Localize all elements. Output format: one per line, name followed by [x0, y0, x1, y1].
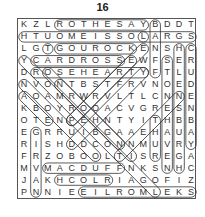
- grid-cell[interactable]: T: [125, 67, 137, 79]
- grid-cell[interactable]: S: [173, 103, 185, 115]
- grid-cell[interactable]: K: [137, 162, 149, 174]
- grid-cell[interactable]: C: [30, 55, 42, 67]
- grid-cell[interactable]: T: [161, 67, 173, 79]
- grid-cell[interactable]: T: [30, 114, 42, 126]
- grid-cell[interactable]: F: [161, 174, 173, 186]
- grid-cell[interactable]: S: [102, 55, 114, 67]
- grid-cell[interactable]: Z: [185, 174, 197, 186]
- grid-cell[interactable]: L: [113, 91, 125, 103]
- grid-cell[interactable]: S: [149, 162, 161, 174]
- grid-cell[interactable]: E: [161, 186, 173, 198]
- grid-cell[interactable]: A: [102, 103, 114, 115]
- grid-cell[interactable]: E: [18, 126, 30, 138]
- grid-cell[interactable]: K: [42, 174, 54, 186]
- grid-cell[interactable]: F: [149, 67, 161, 79]
- grid-cell[interactable]: O: [161, 79, 173, 91]
- grid-cell[interactable]: A: [185, 150, 197, 162]
- grid-cell[interactable]: K: [18, 103, 30, 115]
- grid-cell[interactable]: G: [137, 103, 149, 115]
- grid-cell[interactable]: B: [90, 126, 102, 138]
- grid-cell[interactable]: Z: [30, 19, 42, 31]
- grid-cell[interactable]: I: [90, 31, 102, 43]
- grid-cell[interactable]: W: [78, 91, 90, 103]
- grid-cell[interactable]: B: [173, 114, 185, 126]
- grid-cell[interactable]: L: [18, 43, 30, 55]
- grid-cell[interactable]: U: [185, 67, 197, 79]
- grid-cell[interactable]: E: [173, 55, 185, 67]
- grid-cell[interactable]: A: [54, 162, 66, 174]
- grid-cell[interactable]: R: [54, 55, 66, 67]
- grid-cell[interactable]: I: [78, 126, 90, 138]
- grid-cell[interactable]: S: [137, 150, 149, 162]
- grid-cell[interactable]: K: [173, 186, 185, 198]
- grid-cell[interactable]: D: [66, 138, 78, 150]
- grid-cell[interactable]: E: [125, 55, 137, 67]
- grid-cell[interactable]: U: [149, 138, 161, 150]
- grid-cell[interactable]: U: [42, 31, 54, 43]
- grid-cell[interactable]: R: [102, 174, 114, 186]
- grid-cell[interactable]: N: [54, 114, 66, 126]
- grid-cell[interactable]: O: [149, 174, 161, 186]
- grid-cell[interactable]: G: [102, 126, 114, 138]
- grid-cell[interactable]: O: [125, 31, 137, 43]
- grid-cell[interactable]: O: [90, 103, 102, 115]
- grid-cell[interactable]: R: [54, 126, 66, 138]
- grid-cell[interactable]: I: [90, 186, 102, 198]
- grid-cell[interactable]: L: [137, 31, 149, 43]
- grid-cell[interactable]: R: [185, 55, 197, 67]
- grid-cell[interactable]: L: [102, 186, 114, 198]
- grid-cell[interactable]: Y: [125, 114, 137, 126]
- grid-cell[interactable]: C: [185, 162, 197, 174]
- grid-cell[interactable]: U: [66, 126, 78, 138]
- grid-cell[interactable]: R: [30, 150, 42, 162]
- grid-cell[interactable]: F: [102, 162, 114, 174]
- grid-cell[interactable]: B: [185, 114, 197, 126]
- grid-cell[interactable]: R: [54, 19, 66, 31]
- grid-cell[interactable]: A: [125, 174, 137, 186]
- grid-cell[interactable]: E: [161, 103, 173, 115]
- grid-cell[interactable]: A: [125, 19, 137, 31]
- grid-cell[interactable]: N: [30, 186, 42, 198]
- grid-cell[interactable]: N: [161, 91, 173, 103]
- grid-cell[interactable]: R: [42, 126, 54, 138]
- grid-cell[interactable]: J: [18, 174, 30, 186]
- grid-cell[interactable]: N: [125, 138, 137, 150]
- grid-cell[interactable]: O: [30, 91, 42, 103]
- grid-cell[interactable]: O: [90, 55, 102, 67]
- grid-cell[interactable]: C: [185, 43, 197, 55]
- grid-cell[interactable]: S: [54, 67, 66, 79]
- grid-cell[interactable]: T: [113, 150, 125, 162]
- grid-cell[interactable]: U: [90, 162, 102, 174]
- grid-cell[interactable]: F: [113, 79, 125, 91]
- grid-cell[interactable]: Z: [42, 150, 54, 162]
- grid-cell[interactable]: T: [102, 79, 114, 91]
- grid-cell[interactable]: R: [18, 138, 30, 150]
- grid-cell[interactable]: N: [18, 79, 30, 91]
- grid-cell[interactable]: S: [113, 31, 125, 43]
- grid-cell[interactable]: V: [161, 138, 173, 150]
- grid-cell[interactable]: Y: [185, 138, 197, 150]
- grid-cell[interactable]: T: [185, 19, 197, 31]
- grid-cell[interactable]: L: [137, 91, 149, 103]
- grid-cell[interactable]: E: [66, 186, 78, 198]
- grid-cell[interactable]: C: [113, 43, 125, 55]
- grid-cell[interactable]: T: [149, 114, 161, 126]
- grid-cell[interactable]: E: [137, 43, 149, 55]
- grid-cell[interactable]: A: [125, 126, 137, 138]
- grid-cell[interactable]: O: [54, 150, 66, 162]
- grid-cell[interactable]: M: [137, 138, 149, 150]
- grid-cell[interactable]: R: [149, 103, 161, 115]
- grid-cell[interactable]: B: [78, 79, 90, 91]
- grid-cell[interactable]: P: [18, 186, 30, 198]
- grid-cell[interactable]: E: [78, 186, 90, 198]
- grid-cell[interactable]: M: [42, 162, 54, 174]
- grid-cell[interactable]: S: [185, 31, 197, 43]
- grid-cell[interactable]: H: [161, 114, 173, 126]
- grid-cell[interactable]: L: [173, 67, 185, 79]
- grid-cell[interactable]: S: [42, 138, 54, 150]
- grid-cell[interactable]: N: [54, 79, 66, 91]
- grid-cell[interactable]: I: [54, 186, 66, 198]
- grid-cell[interactable]: E: [42, 114, 54, 126]
- grid-cell[interactable]: G: [54, 43, 66, 55]
- grid-cell[interactable]: G: [137, 174, 149, 186]
